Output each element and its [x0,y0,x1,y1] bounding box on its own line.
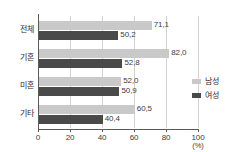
tick-80 [166,129,167,132]
category-label-기혼: 기혼 [0,53,34,63]
bar-value-여성-전체: 50,2 [120,30,135,39]
y-axis-line [38,14,39,130]
bar-여성-기혼 [38,59,122,68]
bars-layer: 71,150,282,052,852,050,960,540,4 [38,16,198,128]
legend-label-남성: 남성 [205,77,219,87]
category-label-기타: 기타 [0,109,34,119]
bar-value-여성-기혼: 52,8 [124,58,139,67]
x-tick-label-40: 40 [90,133,114,143]
legend: 남성여성 [192,76,238,104]
category-labels: 전체기혼미혼기타 [0,16,34,128]
x-tick-label-60: 60 [122,133,146,143]
category-label-미혼: 미혼 [0,81,34,91]
bar-value-남성-기타: 60,5 [137,104,152,113]
axis-unit-label: (%) [186,141,210,150]
bar-남성-기타 [38,105,135,114]
bar-value-여성-기타: 40,4 [105,114,120,123]
tick-100 [198,129,199,132]
x-tick-label-80: 80 [154,133,178,143]
bar-여성-전체 [38,31,118,40]
x-tick-label-20: 20 [58,133,82,143]
legend-item-남성[interactable]: 남성 [192,76,238,87]
bar-value-남성-전체: 71,1 [154,20,169,29]
bar-value-여성-미혼: 50,9 [121,86,136,95]
bar-여성-미혼 [38,87,119,96]
bar-value-남성-기혼: 82,0 [171,48,186,57]
legend-swatch-남성 [192,79,201,84]
bar-value-남성-미혼: 52,0 [123,76,138,85]
tick-60 [134,129,135,132]
tick-40 [102,129,103,132]
bar-남성-기혼 [38,49,169,58]
x-tick-label-0: 0 [26,133,50,143]
category-label-전체: 전체 [0,25,34,35]
bar-남성-전체 [38,21,152,30]
legend-label-여성: 여성 [205,91,219,101]
x-axis-line [38,129,199,130]
legend-item-여성[interactable]: 여성 [192,90,238,101]
bar-chart: 71,150,282,052,852,050,960,540,4 전체기혼미혼기… [0,0,241,152]
bar-여성-기타 [38,115,103,124]
tick-0 [38,129,39,132]
gridline-100 [198,16,199,128]
bar-남성-미혼 [38,77,121,86]
tick-20 [70,129,71,132]
legend-swatch-여성 [192,93,201,98]
